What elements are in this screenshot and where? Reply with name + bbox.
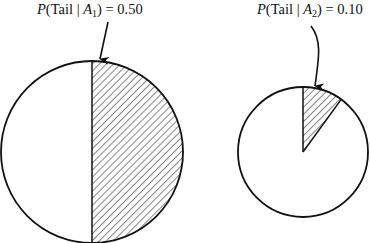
diagram-canvas — [0, 0, 371, 243]
pie-a2 — [238, 87, 368, 217]
arrow-icon-a1 — [100, 22, 108, 59]
hatched-half-a1 — [92, 61, 183, 243]
hatched-wedge-a2 — [303, 87, 341, 152]
pie-a1 — [1, 61, 183, 243]
arrow-icon-a2 — [311, 26, 319, 86]
